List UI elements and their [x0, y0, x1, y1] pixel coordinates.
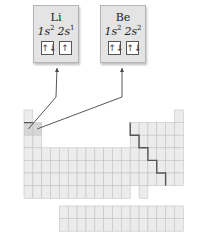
- f-block-cell: [139, 219, 148, 232]
- element-cell: [121, 160, 130, 173]
- element-cell: [121, 148, 130, 161]
- element-cell: [157, 160, 166, 173]
- f-block-cell: [104, 219, 113, 232]
- periodic-table: [0, 0, 198, 244]
- element-cell: [166, 160, 175, 173]
- element-cell: [148, 148, 157, 161]
- element-cell: [33, 160, 42, 173]
- element-cell: [104, 173, 113, 186]
- element-cell: [157, 123, 166, 136]
- element-cell: [174, 135, 183, 148]
- element-cell-be: [33, 123, 42, 136]
- element-cell: [24, 110, 33, 123]
- element-cell: [174, 173, 183, 186]
- element-cell: [148, 123, 157, 136]
- f-block-cell: [77, 206, 86, 219]
- element-cell: [174, 110, 183, 123]
- element-cell: [139, 160, 148, 173]
- element-cell: [104, 160, 113, 173]
- element-cell: [104, 148, 113, 161]
- element-cell: [139, 148, 148, 161]
- element-cell: [86, 173, 95, 186]
- element-cell: [68, 173, 77, 186]
- f-block-cell: [130, 219, 139, 232]
- f-block-cell: [95, 219, 104, 232]
- f-block-cell: [121, 206, 130, 219]
- element-cell: [113, 160, 122, 173]
- element-cell: [59, 186, 68, 199]
- element-cell: [77, 173, 86, 186]
- element-cell: [139, 173, 148, 186]
- element-cell: [113, 186, 122, 199]
- element-cell: [42, 173, 51, 186]
- f-block-cell: [148, 219, 157, 232]
- element-cell: [130, 123, 139, 136]
- f-block-cell: [166, 206, 175, 219]
- element-cell: [104, 186, 113, 199]
- element-cell: [130, 173, 139, 186]
- element-cell: [157, 173, 166, 186]
- element-cell: [59, 160, 68, 173]
- element-cell: [174, 160, 183, 173]
- element-cell: [139, 186, 148, 199]
- element-cell: [121, 173, 130, 186]
- element-cell: [130, 135, 139, 148]
- f-block-cell: [104, 206, 113, 219]
- element-cell: [24, 186, 33, 199]
- f-block-cell: [68, 206, 77, 219]
- element-cell: [68, 148, 77, 161]
- element-cell: [139, 135, 148, 148]
- element-cell: [157, 135, 166, 148]
- element-cell: [51, 160, 60, 173]
- element-cell: [139, 123, 148, 136]
- element-cell: [42, 148, 51, 161]
- element-cell: [148, 160, 157, 173]
- f-block-cell: [157, 206, 166, 219]
- element-cell: [113, 173, 122, 186]
- element-cell: [130, 148, 139, 161]
- element-cell: [33, 186, 42, 199]
- element-cell: [95, 148, 104, 161]
- element-cell: [86, 148, 95, 161]
- element-cell: [33, 148, 42, 161]
- element-cell: [95, 160, 104, 173]
- be-pointer-arrow-head: [120, 68, 124, 72]
- f-block-cell: [59, 206, 68, 219]
- element-cell: [166, 135, 175, 148]
- element-cell: [95, 186, 104, 199]
- element-cell: [68, 160, 77, 173]
- be-pointer-arrow: [37, 68, 122, 129]
- element-cell: [148, 135, 157, 148]
- element-cell: [77, 148, 86, 161]
- f-block-cell: [148, 206, 157, 219]
- f-block-cell: [174, 219, 183, 232]
- element-cell: [174, 148, 183, 161]
- element-cell: [51, 186, 60, 199]
- f-block-cell: [113, 206, 122, 219]
- element-cell: [166, 173, 175, 186]
- element-cell: [77, 186, 86, 199]
- element-cell: [24, 160, 33, 173]
- element-cell: [174, 123, 183, 136]
- li-pointer-arrow-head: [55, 68, 59, 72]
- element-cell: [33, 173, 42, 186]
- element-cell: [148, 173, 157, 186]
- element-cell: [166, 148, 175, 161]
- element-cell: [130, 160, 139, 173]
- f-block-cell: [166, 219, 175, 232]
- element-cell: [24, 173, 33, 186]
- f-block-cell: [86, 219, 95, 232]
- element-cell: [59, 148, 68, 161]
- f-block-cell: [59, 219, 68, 232]
- element-cell: [33, 135, 42, 148]
- element-cell: [166, 123, 175, 136]
- element-cell: [51, 173, 60, 186]
- f-block-cell: [77, 219, 86, 232]
- element-cell: [95, 173, 104, 186]
- element-cell: [42, 186, 51, 199]
- f-block-cell: [121, 219, 130, 232]
- element-cell: [86, 186, 95, 199]
- f-block-cell: [68, 219, 77, 232]
- element-cell: [59, 173, 68, 186]
- f-block-cell: [95, 206, 104, 219]
